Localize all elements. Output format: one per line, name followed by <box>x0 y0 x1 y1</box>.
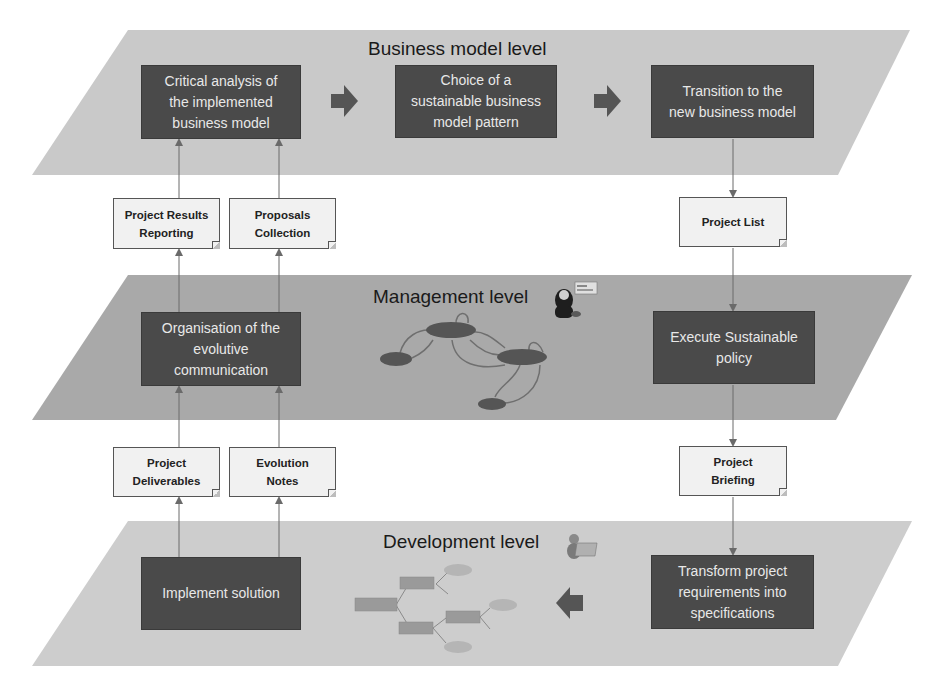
business-level-title: Business model level <box>368 38 546 60</box>
implement-solution-box: Implement solution <box>141 557 301 630</box>
development-level-title: Development level <box>383 531 539 553</box>
execute-policy-box: Execute Sustainable policy <box>653 311 815 384</box>
organisation-box: Organisation of the evolutive communicat… <box>141 312 301 386</box>
choice-pattern-box: Choice of a sustainable business model p… <box>395 65 557 138</box>
critical-analysis-box: Critical analysis of the implemented bus… <box>141 65 301 139</box>
evolution-notes-note: Evolution Notes <box>229 447 336 497</box>
project-briefing-note: Project Briefing <box>679 446 787 496</box>
proposals-collection-note: Proposals Collection <box>229 198 336 249</box>
transition-box: Transition to the new business model <box>651 65 814 138</box>
project-list-note: Project List <box>679 197 787 247</box>
project-deliverables-note: Project Deliverables <box>113 447 220 497</box>
diagram-canvas: Business model level Management level De… <box>0 0 939 692</box>
project-results-reporting-note: Project Results Reporting <box>113 198 220 249</box>
transform-requirements-box: Transform project requirements into spec… <box>651 555 814 629</box>
management-level-title: Management level <box>373 286 528 308</box>
